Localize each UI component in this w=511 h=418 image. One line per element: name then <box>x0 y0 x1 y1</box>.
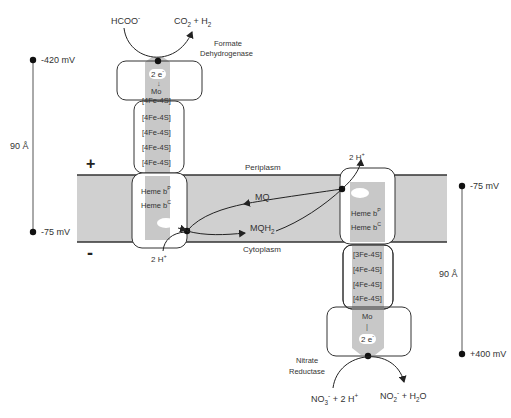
right-scale-distance: 90 Å <box>439 270 458 279</box>
left-scale-top-dot <box>30 57 36 63</box>
fdh-cofactor-mo: Mo <box>151 88 161 96</box>
right-scale-bottom-potential: +400 mV <box>470 350 506 359</box>
nar-heme-bp: Heme bP <box>351 208 381 217</box>
nar-cofactor-fes: [4Fe-4S] <box>353 266 382 274</box>
nar-cofactor-fes: [4Fe-4S] <box>353 295 382 303</box>
left-scale-bottom-dot <box>30 229 36 235</box>
fdh-name-line1: Formate <box>214 40 242 48</box>
mq-label: MQ <box>255 193 270 202</box>
left-scale-bottom-potential: -75 mV <box>41 228 70 237</box>
nar-electrons: 2 e- <box>359 334 376 344</box>
right-scale-bottom-dot <box>459 351 465 357</box>
nar-cofactor-fes: [4Fe-4S] <box>353 281 382 289</box>
mqh2-label: MQH2 <box>250 224 275 235</box>
plus-sign: + <box>86 156 95 172</box>
fdh-heme-bc: Heme bC <box>141 200 171 209</box>
nar-cofactor-fes: [3Fe-4S] <box>353 251 382 259</box>
fdh-cofactor-fes: [4Fe-4S] <box>142 97 171 105</box>
cytoplasm-label: Cytoplasm <box>243 246 281 254</box>
left-scale-distance: 90 Å <box>10 142 29 151</box>
right-scale-top-dot <box>459 183 465 189</box>
periplasm-label: Periplasm <box>245 164 281 172</box>
formate-oxidation-arc <box>124 28 192 57</box>
diagram-canvas <box>0 0 511 418</box>
nitrate-substrate-label: NO3- + 2 H+ <box>311 393 358 406</box>
co2-h2-label: CO2 + H2 <box>174 17 211 28</box>
nar-electron-arrow-icon: | <box>366 323 368 331</box>
nar-cofactor-mo: Mo <box>362 313 372 321</box>
minus-sign: - <box>87 244 93 262</box>
nar-name-line2: Reductase <box>289 368 325 376</box>
fdh-cofactor-fes: [4Fe-4S] <box>142 114 171 122</box>
fdh-heme-bp: Heme bP <box>141 186 171 195</box>
nitrite-product-label: NO2- + H2O <box>380 390 426 403</box>
nitrate-reduction-arc <box>333 357 404 388</box>
nar-name-line1: Nitrate <box>296 357 318 365</box>
fdh-electrons: 2 e- <box>149 69 166 79</box>
nar-quinone-site <box>351 188 369 198</box>
fdh-cofactor-fes: [4Fe-4S] <box>142 129 171 137</box>
right-scale-top-potential: -75 mV <box>470 182 499 191</box>
left-scale-top-potential: -420 mV <box>41 56 75 65</box>
formate-label: HCOO- <box>111 15 140 26</box>
fdh-cofactor-fes: [4Fe-4S] <box>142 159 171 167</box>
fdh-cofactor-fes: [4Fe-4S] <box>142 144 171 152</box>
nar-heme-bc: Heme bC <box>351 222 381 231</box>
nar-protons: 2 H+ <box>349 152 365 162</box>
fdh-protons: 2 H+ <box>151 254 167 264</box>
fdh-name-line2: Dehydrogenase <box>200 50 253 58</box>
fdh-quinone-site <box>157 218 175 228</box>
